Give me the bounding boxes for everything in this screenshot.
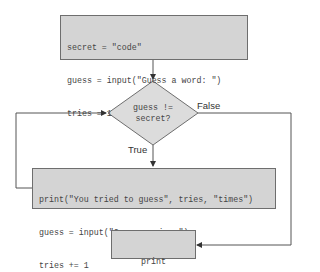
code-line: print("You tried to guess", tries, "time…: [39, 194, 275, 205]
code-line: guess = input("Guess a word: "): [67, 75, 247, 86]
init-process-box: secret = "code" guess = input("Guess a w…: [60, 15, 248, 60]
code-line: print: [112, 256, 195, 267]
loop-process-box: print("You tried to guess", tries, "time…: [32, 168, 276, 209]
decision-text: guess != secret?: [118, 102, 188, 124]
false-label: False: [197, 100, 220, 111]
decision-line: guess !=: [118, 102, 188, 113]
code-line: secret = "code": [67, 42, 247, 53]
decision-line: secret?: [118, 113, 188, 124]
true-label: True: [128, 144, 147, 155]
end-process-box: print ("You got it!"): [111, 230, 196, 259]
